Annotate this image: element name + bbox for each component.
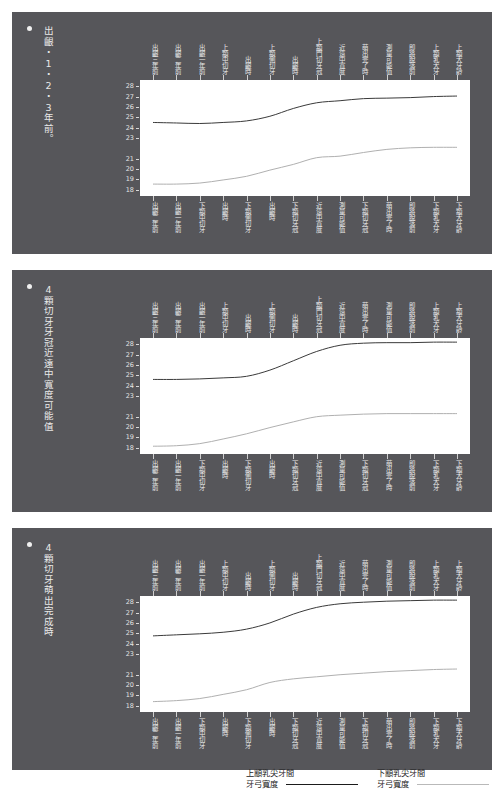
x-axis-label-bottom: 出齦一年前 <box>173 718 180 748</box>
y-axis-tick-mark <box>136 448 139 449</box>
x-axis-label-top: 即將脫落前 <box>407 44 414 74</box>
x-axis-label-bottom: 出齦時 <box>220 202 227 220</box>
x-axis-tick-mark <box>434 591 435 596</box>
x-axis-tick-mark <box>363 712 364 717</box>
legend-line-maxilla <box>286 784 358 786</box>
x-axis-tick-mark <box>340 454 341 459</box>
x-axis-tick-mark <box>363 196 364 201</box>
x-axis-label-top: 萌出完了時 <box>360 44 367 74</box>
x-axis-tick-mark <box>247 333 248 338</box>
x-axis-tick-mark <box>176 712 177 717</box>
legend-line-mandible <box>417 784 489 786</box>
x-axis-tick-mark <box>457 712 458 717</box>
x-axis-label-top: 出齦時 <box>244 314 251 332</box>
y-axis-tick-label: 21 <box>126 155 134 162</box>
plot-wrapper: 28272625242321201918 出齦三年前出齦二年前出齦二年前出齦一年… <box>120 12 492 254</box>
plot-area <box>140 596 470 712</box>
x-axis-tick-mark <box>434 712 435 717</box>
x-axis-label-top: 上顓乳犬牙 <box>431 44 438 74</box>
x-axis-label-bottom: 出齦一年前 <box>173 202 180 232</box>
x-axis-label-top: 出齦二年前 <box>173 560 180 590</box>
x-axis-tick-mark <box>293 196 294 201</box>
y-axis-tick-mark <box>136 695 139 696</box>
x-axis-tick-mark <box>410 591 411 596</box>
x-axis-tick-mark <box>293 75 294 80</box>
x-axis-tick-mark <box>410 454 411 459</box>
x-axis-label-top: 出齦三年前 <box>150 560 157 590</box>
x-axis-tick-mark <box>387 591 388 596</box>
x-axis-tick-mark <box>247 591 248 596</box>
x-axis-label-bottom: 近遠中寬度 <box>314 460 321 490</box>
x-axis-tick-mark <box>434 454 435 459</box>
x-axis-label-bottom: 出齦二年前 <box>150 718 157 748</box>
x-axis-tick-mark <box>223 333 224 338</box>
x-axis-label-bottom: 下顓犬牙齡 <box>454 202 461 232</box>
y-axis-tick-mark <box>136 654 139 655</box>
x-axis-tick-mark <box>340 196 341 201</box>
x-axis-tick-mark <box>363 333 364 338</box>
series-line <box>153 147 457 184</box>
y-axis-tick-mark <box>136 375 139 376</box>
series-line <box>153 600 457 636</box>
y-axis-tick-label: 28 <box>126 599 134 606</box>
x-axis-label-top: 萌出完了時 <box>360 560 367 590</box>
x-axis-tick-mark <box>176 454 177 459</box>
y-axis-tick-mark <box>136 128 139 129</box>
y-axis-tick-label: 25 <box>126 114 134 121</box>
x-axis-tick-mark <box>340 712 341 717</box>
chart-legend: 上顓乳尖牙間 牙弓寬度 下顓乳尖牙間 牙弓寬度 <box>246 768 494 802</box>
x-axis-label-bottom: 下顓犬牙齡 <box>454 718 461 748</box>
x-axis-tick-mark <box>457 454 458 459</box>
x-axis-tick-mark <box>457 333 458 338</box>
y-axis-tick-label: 24 <box>126 382 134 389</box>
y-axis-tick-mark <box>136 706 139 707</box>
x-axis-label-bottom: 近遠中寬度 <box>314 202 321 232</box>
panel-title: 出齦・1・2・3年前。 <box>20 26 54 241</box>
x-axis-label-bottom: 出齦時 <box>220 718 227 736</box>
legend-item-mandible: 下顓乳尖牙間 牙弓寬度 <box>377 768 494 802</box>
y-axis-tick-label: 21 <box>126 413 134 420</box>
y-axis-tick-mark <box>136 602 139 603</box>
x-axis-label-top: 上顓門切牙冠 <box>314 296 321 332</box>
x-axis-label-bottom: 下顓中切牙 <box>197 460 204 490</box>
y-axis-tick-mark <box>136 344 139 345</box>
plot-wrapper: 28272625242321201918 出齦三年前出齦二年前出齦二年前出齦一年… <box>120 270 492 512</box>
y-axis-tick-label: 25 <box>126 372 134 379</box>
y-axis-tick-mark <box>136 386 139 387</box>
x-axis-label-bottom: 出齦時 <box>267 718 274 736</box>
y-axis-tick-mark <box>136 427 139 428</box>
y-axis: 28272625242321201918 <box>118 596 138 712</box>
x-axis-label-bottom: 出齦時 <box>220 460 227 478</box>
x-axis-label-top: 上顓中切牙 <box>220 560 227 590</box>
x-axis-tick-mark <box>317 591 318 596</box>
x-axis-label-top: 上顓中切牙 <box>220 302 227 332</box>
x-axis-tick-mark <box>457 591 458 596</box>
y-axis-tick-label: 28 <box>126 341 134 348</box>
y-axis-tick-mark <box>136 613 139 614</box>
x-axis-label-top: 上顓側切牙 <box>267 302 274 332</box>
x-axis-tick-mark <box>270 333 271 338</box>
x-axis-tick-mark <box>387 75 388 80</box>
x-axis-tick-mark <box>153 75 154 80</box>
x-axis-tick-mark <box>200 75 201 80</box>
y-axis-tick-label: 20 <box>126 424 134 431</box>
legend-label-mandible-line1: 下顓乳尖牙間 <box>377 768 494 779</box>
x-axis-tick-mark <box>434 333 435 338</box>
x-axis-label-top: 出齦三年前 <box>150 44 157 74</box>
x-axis-tick-mark <box>153 196 154 201</box>
y-axis-tick-label: 26 <box>126 103 134 110</box>
x-axis-tick-mark <box>317 196 318 201</box>
legend-item-maxilla: 上顓乳尖牙間 牙弓寬度 <box>246 768 363 802</box>
x-axis-label-top: 上顓犬牙齡 <box>454 44 461 74</box>
x-axis-tick-mark <box>317 75 318 80</box>
x-axis-label-top: 出齦時 <box>290 572 297 590</box>
x-axis-label-top: 上顓門切牙冠 <box>314 554 321 590</box>
plot-area <box>140 338 470 454</box>
x-axis-tick-mark <box>363 454 364 459</box>
x-axis-label-bottom: 下顓切牙冠 <box>360 202 367 232</box>
x-axis-tick-mark <box>223 712 224 717</box>
y-axis-tick-label: 27 <box>126 609 134 616</box>
x-axis-label-top: 即將脫落前 <box>407 560 414 590</box>
x-axis-label-bottom: 萌出完了時 <box>384 718 391 748</box>
x-axis-tick-mark <box>200 333 201 338</box>
